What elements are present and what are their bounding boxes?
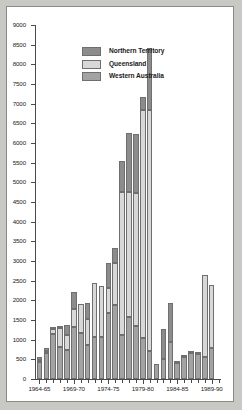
bar-segment (85, 319, 91, 345)
y-tick: 7000 (31, 104, 36, 105)
bar-segment (126, 317, 132, 379)
x-tick-major (108, 380, 109, 384)
y-tick: 8000 (31, 64, 36, 65)
legend-item-qld[interactable]: Queensland (82, 60, 164, 69)
x-tick (157, 380, 158, 383)
x-tick (122, 380, 123, 383)
y-tick: 1000 (31, 340, 36, 341)
bar-segment (112, 263, 118, 306)
bar-1983-84 (168, 303, 174, 379)
bar-segment (112, 305, 118, 379)
legend-swatch-icon (82, 72, 101, 81)
bar-1984-85 (174, 361, 180, 379)
x-tick (170, 380, 171, 383)
x-tick (81, 380, 82, 383)
y-tick-label: 4000 (13, 219, 26, 225)
x-tick (150, 380, 151, 383)
x-tick (67, 380, 68, 383)
bar-1980-81 (147, 48, 153, 379)
bar-1982-83 (161, 329, 167, 379)
x-tick (53, 380, 54, 383)
bar-segment (44, 353, 50, 379)
legend-item-wa[interactable]: Western Australia (82, 72, 164, 81)
x-tick (46, 380, 47, 383)
y-tick: 4000 (31, 222, 36, 223)
y-tick-label: 3000 (13, 258, 26, 264)
bar-1988-89 (202, 275, 208, 379)
bar-1979-80 (140, 97, 146, 379)
bar-segment (147, 351, 153, 379)
bar-1985-86 (181, 355, 187, 379)
bar-segment (99, 286, 105, 338)
bar-segment (112, 248, 118, 263)
x-tick-label: 1989-90 (201, 386, 223, 392)
legend-swatch-icon (82, 47, 101, 56)
bar-segment (57, 328, 63, 347)
bar-segment (209, 348, 215, 379)
x-tick-major (143, 380, 144, 384)
bar-segment (202, 275, 208, 357)
bar-1989-90 (209, 285, 215, 379)
bar-1971-72 (85, 303, 91, 379)
x-tick (205, 380, 206, 383)
x-tick (60, 380, 61, 383)
y-tick: 1500 (31, 320, 36, 321)
bar-segment (78, 304, 84, 334)
bar-segment (64, 335, 70, 350)
bar-segment (188, 353, 194, 379)
x-tick-major (177, 380, 178, 384)
bar-segment (133, 134, 139, 193)
y-tick-label: 9000 (13, 22, 26, 28)
bar-segment (168, 303, 174, 342)
bar-1973-74 (99, 286, 105, 379)
y-tick: 5500 (31, 163, 36, 164)
bar-segment (209, 285, 215, 349)
bar-segment (64, 325, 70, 335)
bar-1976-77 (119, 161, 125, 379)
y-tick: 5000 (31, 182, 36, 183)
chart-legend: Northern TerritoryQueenslandWestern Aust… (82, 47, 164, 81)
y-tick-label: 6500 (13, 120, 26, 126)
bar-1965-66 (44, 348, 50, 379)
x-tick-label: 1984-85 (166, 386, 188, 392)
x-tick (101, 380, 102, 383)
y-tick-label: 6000 (13, 140, 26, 146)
bar-segment (119, 335, 125, 379)
bar-1986-87 (188, 351, 194, 379)
bar-1966-67 (50, 327, 56, 379)
x-tick (184, 380, 185, 383)
bar-segment (71, 292, 77, 309)
bar-segment (195, 354, 201, 379)
legend-label: Northern Territory (109, 48, 164, 55)
bar-1978-79 (133, 134, 139, 379)
plot-area: 0500100015002000250030003500400045005000… (35, 25, 221, 380)
legend-label: Queensland (109, 61, 146, 68)
y-tick: 4500 (31, 202, 36, 203)
bar-1969-70 (71, 292, 77, 379)
bar-segment (126, 133, 132, 192)
y-tick-label: 2500 (13, 278, 26, 284)
y-tick: 6000 (31, 143, 36, 144)
bar-segment (106, 263, 112, 289)
bar-1975-76 (112, 248, 118, 379)
bar-segment (119, 192, 125, 335)
bar-1974-75 (106, 263, 112, 379)
x-tick (115, 380, 116, 383)
y-tick-label: 7000 (13, 101, 26, 107)
bar-1968-69 (64, 325, 70, 379)
bar-segment (140, 97, 146, 111)
x-tick (163, 380, 164, 383)
x-tick-label: 1964-65 (28, 386, 50, 392)
bar-1972-73 (92, 283, 98, 379)
y-tick-label: 7500 (13, 81, 26, 87)
bar-segment (71, 309, 77, 327)
bar-segment (161, 329, 167, 358)
bar-segment (92, 283, 98, 337)
legend-item-nt[interactable]: Northern Territory (82, 47, 164, 56)
y-tick-label: 2000 (13, 297, 26, 303)
y-tick: 2500 (31, 281, 36, 282)
bar-segment (202, 357, 208, 379)
bar-segment (37, 362, 43, 379)
bar-1987-88 (195, 352, 201, 379)
bar-segment (57, 347, 63, 379)
